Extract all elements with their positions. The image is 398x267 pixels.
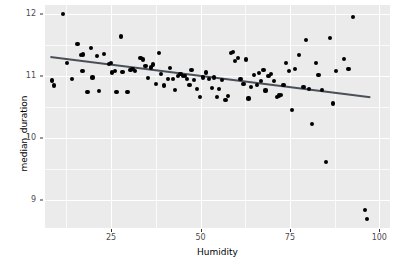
data-point xyxy=(154,82,158,86)
x-axis-tick-mark xyxy=(111,229,112,232)
data-point xyxy=(365,217,369,221)
data-point xyxy=(207,77,211,81)
data-point xyxy=(346,67,350,71)
data-point xyxy=(284,61,288,65)
data-point xyxy=(279,93,283,97)
data-point xyxy=(61,12,65,16)
y-axis-tick-mark xyxy=(40,138,43,139)
x-axis-tick-labels: 255075100 xyxy=(0,233,398,245)
y-axis-tick-label: 9 xyxy=(0,195,36,205)
data-point xyxy=(272,79,276,83)
data-point xyxy=(255,83,259,87)
data-point xyxy=(80,69,84,73)
data-point xyxy=(310,122,314,126)
data-point xyxy=(320,88,324,92)
data-point xyxy=(293,67,297,71)
data-point xyxy=(97,89,101,93)
data-point xyxy=(297,53,301,57)
data-point xyxy=(162,83,166,87)
data-point xyxy=(210,86,214,90)
data-point xyxy=(201,75,205,79)
data-point xyxy=(146,76,150,80)
data-point xyxy=(198,95,202,99)
data-point xyxy=(90,75,94,79)
data-point xyxy=(102,52,106,56)
data-point xyxy=(168,66,172,70)
data-point xyxy=(166,77,170,81)
data-point xyxy=(314,61,318,65)
data-point xyxy=(351,15,355,19)
data-point xyxy=(70,77,74,81)
data-point xyxy=(363,208,367,212)
data-point xyxy=(195,87,199,91)
data-point xyxy=(236,56,240,60)
y-axis-tick-label: 11 xyxy=(0,71,36,81)
data-point xyxy=(244,57,248,61)
data-point xyxy=(217,87,221,91)
data-point xyxy=(304,38,308,42)
y-axis-tick-mark xyxy=(40,76,43,77)
data-point xyxy=(52,83,56,87)
x-axis-tick-label: 25 xyxy=(91,233,131,243)
data-point xyxy=(192,78,196,82)
x-axis-tick-label: 100 xyxy=(359,233,398,243)
scatter-plot-figure: median_duration 9101112 255075100 Humidi… xyxy=(0,0,398,267)
data-point xyxy=(249,85,253,89)
data-point xyxy=(187,83,191,87)
data-point xyxy=(263,88,267,92)
data-point xyxy=(257,71,261,75)
data-point xyxy=(331,101,335,105)
data-point xyxy=(157,51,161,55)
x-axis-tick-label: 75 xyxy=(270,233,310,243)
data-point xyxy=(173,88,177,92)
data-point xyxy=(334,69,338,73)
data-point xyxy=(143,64,147,68)
data-point xyxy=(159,72,163,76)
data-point xyxy=(212,75,216,79)
data-point xyxy=(328,36,332,40)
y-axis-tick-mark xyxy=(40,200,43,201)
data-point xyxy=(241,82,245,86)
data-point xyxy=(324,160,328,164)
data-point xyxy=(95,54,99,58)
data-point xyxy=(75,42,79,46)
data-point xyxy=(233,59,237,63)
y-axis-tick-label: 10 xyxy=(0,133,36,143)
data-point xyxy=(215,95,219,99)
data-point xyxy=(231,50,235,54)
x-axis-tick-label: 50 xyxy=(181,233,221,243)
data-point xyxy=(133,69,137,73)
data-point xyxy=(50,78,54,82)
data-point xyxy=(259,79,263,83)
data-point xyxy=(89,46,93,50)
data-point xyxy=(269,72,273,76)
data-point xyxy=(114,90,118,94)
data-point xyxy=(238,77,242,81)
data-point xyxy=(120,70,124,74)
data-point xyxy=(301,85,305,89)
data-point xyxy=(261,68,265,72)
data-point xyxy=(113,69,117,73)
data-point xyxy=(189,68,193,72)
data-points-layer xyxy=(45,5,390,228)
data-point xyxy=(85,90,89,94)
y-axis-tick-mark xyxy=(40,14,43,15)
data-point xyxy=(151,62,155,66)
y-axis-tick-label: 12 xyxy=(0,9,36,19)
data-point xyxy=(316,73,320,77)
data-point xyxy=(246,96,250,100)
x-axis-tick-mark xyxy=(379,229,380,232)
plot-panel xyxy=(45,5,390,228)
data-point xyxy=(125,90,129,94)
data-point xyxy=(141,57,145,61)
data-point xyxy=(119,34,123,38)
data-point xyxy=(171,77,175,81)
x-axis-title: Humidity xyxy=(45,246,390,258)
data-point xyxy=(307,87,311,91)
x-axis-tick-mark xyxy=(201,229,202,232)
y-axis-tick-labels: 9101112 xyxy=(0,0,36,267)
data-point xyxy=(185,77,189,81)
data-point xyxy=(226,94,230,98)
data-point xyxy=(287,69,291,73)
data-point xyxy=(81,52,85,56)
